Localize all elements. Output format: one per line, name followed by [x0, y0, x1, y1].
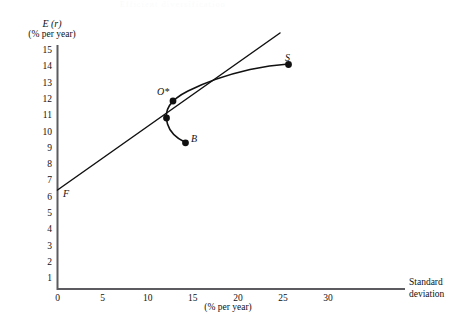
y-tick-label: 10	[30, 127, 52, 137]
y-tick-label: 7	[30, 175, 52, 185]
y-tick-label: 14	[30, 61, 52, 71]
x-axis-title-line1: Standard	[409, 277, 469, 289]
x-tick-label: 10	[137, 293, 159, 303]
x-tick-label: 30	[317, 293, 339, 303]
point-label-f: F	[63, 188, 69, 199]
chart-plot-area	[0, 0, 470, 333]
y-tick-label: 8	[30, 159, 52, 169]
y-tick-label: 5	[30, 208, 52, 218]
x-tick-label: 0	[47, 293, 69, 303]
y-tick-label: 15	[30, 45, 52, 55]
y-tick-label: 3	[30, 241, 52, 251]
y-tick-label: 13	[30, 78, 52, 88]
y-tick-label: 2	[30, 257, 52, 267]
y-tick-label: 1	[30, 273, 52, 283]
figure-container: Efficient diversification E (r) (% per y…	[0, 0, 470, 333]
x-axis-title-line2: deviation	[409, 289, 469, 301]
point-label-b: B	[191, 133, 197, 144]
capital-allocation-line	[58, 33, 281, 190]
y-tick-label: 4	[30, 224, 52, 234]
efficient-frontier-curve	[166, 64, 288, 143]
x-tick-label: 25	[272, 293, 294, 303]
marker-optimal-risky-portfolio	[170, 98, 177, 105]
y-tick-label: 12	[30, 94, 52, 104]
point-label-s: S	[285, 52, 290, 63]
x-tick-label: 5	[92, 293, 114, 303]
marker-portfolio-b	[182, 139, 189, 146]
x-tick-label: 20	[227, 293, 249, 303]
y-axis-title: E (r) (% per year)	[0, 18, 104, 40]
x-axis-units-label: (% per year)	[168, 302, 288, 313]
y-axis-title-line2: (% per year)	[0, 29, 104, 40]
x-tick-label: 15	[182, 293, 204, 303]
point-label-o: O*	[157, 86, 169, 97]
y-tick-label: 9	[30, 143, 52, 153]
marker-minimum-variance-portfolio	[163, 115, 170, 122]
y-tick-label: 11	[30, 110, 52, 120]
x-axis-title: Standard deviation	[409, 277, 469, 300]
y-axis-title-line1: E (r)	[0, 18, 104, 29]
y-tick-label: 6	[30, 192, 52, 202]
